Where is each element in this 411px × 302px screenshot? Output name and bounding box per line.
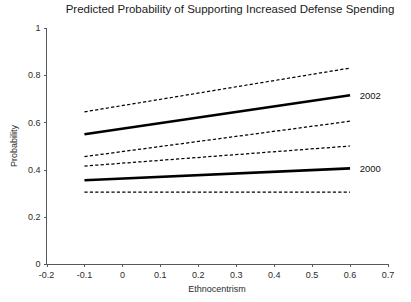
series-layer [84, 68, 350, 192]
x-tick-label: 0.5 [306, 270, 319, 280]
y-tick-label: 0.8 [28, 70, 41, 80]
x-tick-label: -0.2 [39, 270, 55, 280]
x-tick-label: 0.2 [192, 270, 205, 280]
y-tick-label: 0.6 [28, 118, 41, 128]
x-tick-label: -0.1 [77, 270, 93, 280]
x-tick-label: 0.4 [268, 270, 281, 280]
y-tick-label: 0.4 [28, 165, 41, 175]
x-axis: -0.2-0.100.10.20.30.40.50.60.7 Ethnocent… [39, 264, 395, 294]
y-axis-title: Probability [9, 124, 19, 167]
series-label-layer: 20022000 [360, 90, 381, 174]
series-line [84, 68, 350, 112]
x-tick-group: -0.2-0.100.10.20.30.40.50.60.7 [39, 264, 395, 280]
y-tick-label: 1 [35, 23, 40, 33]
x-tick-label: 0.6 [344, 270, 357, 280]
x-tick-label: 0 [120, 270, 125, 280]
x-tick-label: 0.3 [230, 270, 243, 280]
series-label: 2002 [360, 90, 381, 101]
series-line [84, 121, 350, 156]
y-tick-label: 0.2 [28, 212, 41, 222]
series-label: 2000 [360, 163, 381, 174]
series-line [84, 95, 350, 134]
y-tick-group: 00.20.40.60.81 [28, 23, 47, 269]
x-tick-label: 0.1 [154, 270, 167, 280]
y-tick-label: 0 [35, 259, 40, 269]
y-axis: 00.20.40.60.81 Probability [9, 23, 47, 269]
x-tick-label: 0.7 [382, 270, 395, 280]
x-axis-title: Ethnocentrism [188, 284, 246, 294]
series-line [84, 168, 350, 180]
series-line [84, 146, 350, 166]
chart-title: Predicted Probability of Supporting Incr… [66, 3, 395, 15]
chart-figure: Predicted Probability of Supporting Incr… [0, 0, 411, 302]
